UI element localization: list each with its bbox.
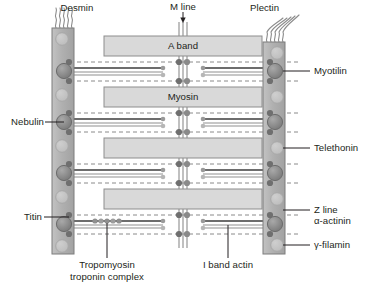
label-z-line: Z line xyxy=(314,204,338,215)
label-a-band: A band xyxy=(104,40,262,51)
label-tropomyosin-line1: Tropomyosin xyxy=(47,259,167,270)
label-gamma-filamin: γ-filamin xyxy=(314,239,350,250)
label-i-band-actin: I band actin xyxy=(182,259,274,270)
label-titin: Titin xyxy=(0,211,42,222)
label-plectin: Plectin xyxy=(250,2,358,13)
label-myosin: Myosin xyxy=(104,91,262,102)
label-alpha-actinin: α-actinin xyxy=(314,215,351,226)
label-nebulin: Nebulin xyxy=(0,116,44,127)
z-line-left-column xyxy=(52,28,74,254)
label-m-line: M line xyxy=(152,1,214,12)
label-tropomyosin-line2: troponin complex xyxy=(40,271,174,282)
plectin-filaments-icon xyxy=(266,15,299,42)
label-desmin: Desmin xyxy=(40,2,114,13)
label-myotilin: Myotilin xyxy=(314,65,347,76)
z-line-right-column xyxy=(263,42,285,254)
tropomyosin-troponin-beads xyxy=(92,218,121,223)
label-telethonin: Telethonin xyxy=(314,142,358,153)
figure-canvas: Desmin M line Plectin Myotilin Nebulin T… xyxy=(0,0,366,288)
